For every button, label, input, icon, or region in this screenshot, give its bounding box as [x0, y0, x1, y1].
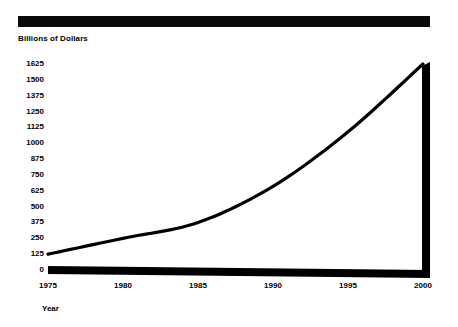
x-axis-title: Year	[42, 304, 59, 313]
right-axis-bar	[422, 62, 430, 278]
x-axis-baseline	[48, 266, 430, 278]
chart-page: Billions of Dollars 16251500137512501125…	[0, 0, 458, 327]
data-line	[48, 64, 423, 254]
plot-area	[0, 0, 458, 327]
